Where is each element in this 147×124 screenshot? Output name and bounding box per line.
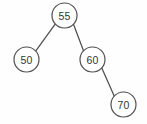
tree-node-right-child[interactable]: 60	[80, 47, 105, 72]
node-label-50: 50	[20, 54, 32, 66]
edge-60-70	[102, 68, 114, 96]
tree-node-root[interactable]: 55	[52, 3, 77, 28]
node-label-70: 70	[117, 99, 129, 111]
node-label-60: 60	[86, 54, 98, 66]
edge-55-50	[36, 24, 55, 50]
edge-55-60	[73, 24, 83, 51]
binary-search-tree-diagram: 55 50 60 70	[0, 0, 147, 124]
node-label-55: 55	[58, 10, 70, 22]
tree-node-right-grandchild[interactable]: 70	[111, 92, 136, 117]
tree-canvas: 55 50 60 70	[0, 0, 147, 124]
tree-node-left-child[interactable]: 50	[14, 47, 39, 72]
